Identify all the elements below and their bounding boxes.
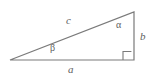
side-label-c: c — [66, 15, 71, 26]
angle-label-alpha: α — [116, 20, 121, 30]
side-label-b: b — [140, 31, 146, 42]
side-label-a: a — [68, 64, 74, 75]
right-angle-marker-icon — [123, 52, 131, 61]
angle-label-beta: β — [50, 43, 55, 53]
triangle-drawing — [0, 0, 154, 79]
triangle-figure: c a b α β — [0, 0, 154, 79]
